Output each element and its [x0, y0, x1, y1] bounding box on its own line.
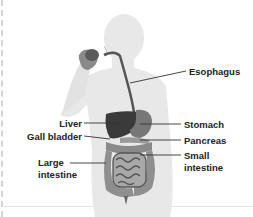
body-illustration [0, 0, 253, 217]
digestive-diagram: Esophagus Liver Gall bladder Large intes… [0, 0, 253, 217]
label-stomach: Stomach [184, 119, 224, 130]
label-small-intestine-2: intestine [184, 162, 223, 173]
label-gall-bladder: Gall bladder [10, 131, 82, 142]
label-liver: Liver [48, 118, 82, 129]
label-large-intestine-2: intestine [38, 169, 77, 180]
small-intestine-organ [113, 153, 146, 187]
label-esophagus: Esophagus [189, 66, 240, 77]
label-large-intestine-1: Large [38, 157, 64, 168]
label-pancreas: Pancreas [184, 135, 226, 146]
label-small-intestine-1: Small [184, 150, 209, 161]
